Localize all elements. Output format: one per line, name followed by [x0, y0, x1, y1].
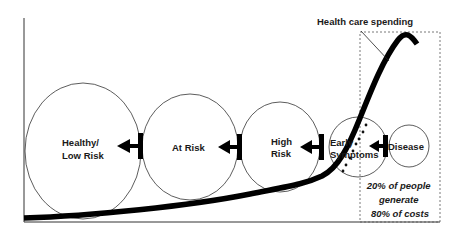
curve-label-leader-line — [361, 31, 389, 61]
stage-label-high-risk: High Risk — [271, 136, 295, 159]
curve-label: Health care spending — [317, 16, 413, 27]
arrow-at-risk-to-healthy — [117, 133, 143, 159]
spending-curve — [24, 35, 417, 218]
stage-label-early-symptoms: Early Symptoms — [330, 137, 379, 160]
stage-label-disease: Disease — [388, 141, 424, 152]
cost-callout: 20% of people generate 80% of costs — [366, 180, 434, 219]
stage-label-healthy: Healthy/ Low Risk — [62, 137, 104, 161]
arrow-early-symptoms-to-high-risk — [300, 134, 324, 160]
stage-label-at-risk: At Risk — [172, 142, 205, 153]
arrow-high-risk-to-at-risk — [218, 134, 242, 160]
diagram-canvas: Health care spending Healthy/ Low Risk A… — [0, 0, 463, 237]
